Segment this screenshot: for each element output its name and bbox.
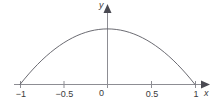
x-tick-label-0-5: 0.5 bbox=[140, 90, 164, 99]
x-axis-label: x bbox=[204, 89, 209, 98]
x-tick-label-1: 1 bbox=[191, 90, 201, 99]
x-tick-label-neg0-5: −0.5 bbox=[51, 90, 78, 99]
plot-canvas bbox=[0, 0, 214, 109]
parabola-figure: −1 −0.5 0.5 1 0 x y bbox=[0, 0, 214, 109]
y-axis-arrow-icon bbox=[104, 4, 112, 13]
origin-label: 0 bbox=[99, 89, 104, 98]
y-axis-label: y bbox=[99, 1, 104, 10]
x-tick-label-neg1: −1 bbox=[10, 90, 32, 99]
